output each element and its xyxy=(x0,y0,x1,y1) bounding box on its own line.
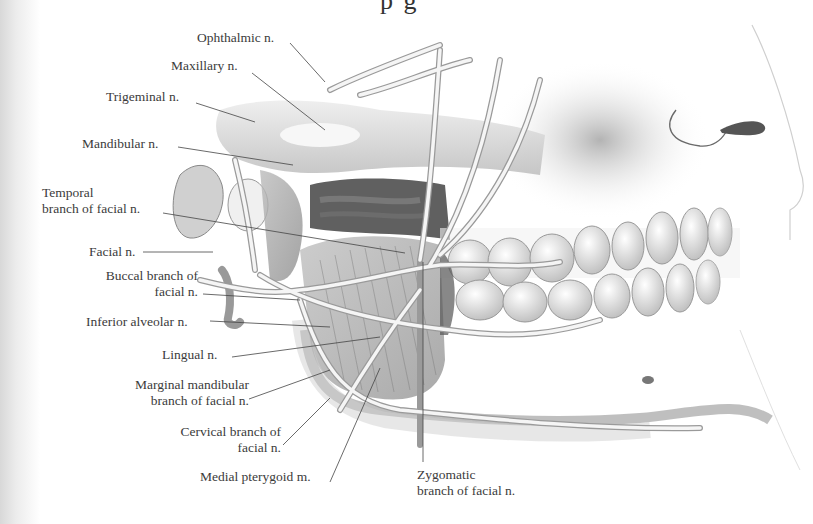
nostril-icon xyxy=(720,121,765,135)
label-line-1: Temporal xyxy=(42,185,140,201)
label-marginal-mandibular-branch: Marginal mandibular branch of facial n. xyxy=(104,377,249,409)
label-line-2: branch of facial n. xyxy=(42,201,140,217)
label-cervical-branch: Cervical branch of facial n. xyxy=(158,424,281,456)
label-medial-pterygoid-muscle: Medial pterygoid m. xyxy=(200,469,311,485)
label-facial-nerve: Facial n. xyxy=(89,244,136,260)
label-line-1: Zygomatic xyxy=(417,467,515,483)
label-ophthalmic-nerve: Ophthalmic n. xyxy=(197,30,274,46)
label-line-1: Buccal branch of xyxy=(89,268,198,284)
teeth xyxy=(440,208,740,384)
label-trigeminal-nerve: Trigeminal n. xyxy=(106,89,179,105)
label-line-1: Marginal mandibular xyxy=(104,377,249,393)
trigeminal-ganglion xyxy=(216,101,545,175)
label-line-2: facial n. xyxy=(158,440,281,456)
label-lingual-nerve: Lingual n. xyxy=(162,347,218,363)
label-line-2: branch of facial n. xyxy=(417,483,515,499)
label-zygomatic-branch: Zygomatic branch of facial n. xyxy=(417,467,515,499)
anatomy-illustration xyxy=(0,0,813,524)
mental-foramen xyxy=(642,376,654,384)
label-mandibular-nerve: Mandibular n. xyxy=(82,136,159,152)
label-maxillary-nerve: Maxillary n. xyxy=(171,58,238,74)
label-inferior-alveolar-nerve: Inferior alveolar n. xyxy=(86,314,188,330)
label-line-2: facial n. xyxy=(89,284,198,300)
label-line-2: branch of facial n. xyxy=(104,393,249,409)
label-temporal-branch: Temporal branch of facial n. xyxy=(42,185,140,217)
label-line-1: Cervical branch of xyxy=(158,424,281,440)
label-buccal-branch: Buccal branch of facial n. xyxy=(89,268,198,300)
